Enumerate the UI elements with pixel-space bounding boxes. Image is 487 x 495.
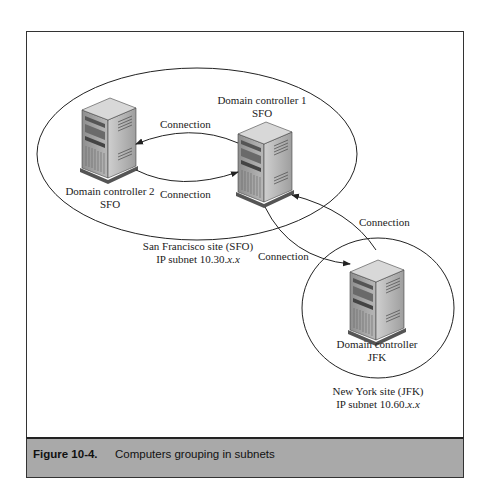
server-icon-dc2 [80,98,138,184]
connection-arrow-dc1-to-dc2 [136,133,238,144]
connection-arrow-dc2-to-dc1 [136,170,238,182]
sfo-site-label: San Francisco site (SFO) IP subnet 10.30… [128,240,268,266]
connection-label-dc1-to-jfk: Connection [258,250,309,263]
figure-number: Figure 10-4. [33,448,98,460]
server-icon-jfk [348,260,406,346]
figure-title: Computers grouping in subnets [115,448,275,460]
server-icon-dc1 [236,122,294,208]
connection-label-jfk-to-dc1: Connection [359,216,410,229]
connection-label-dc2-to-dc1: Connection [160,188,211,201]
jfk-site-label: New York site (JFK) IP subnet 10.60.x.x [324,385,432,411]
figure-caption-bar: Figure 10-4. Computers grouping in subne… [26,437,464,478]
dc1-label: Domain controller 1 SFO [212,94,312,120]
connection-label-dc1-to-dc2: Connection [160,118,211,131]
dc2-label: Domain controller 2 SFO [58,185,162,211]
jfk-dc-label: Domain controller JFK [327,338,427,364]
